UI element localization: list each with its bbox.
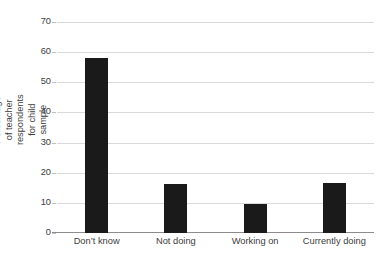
- y-axis-tick-mark: [52, 22, 56, 23]
- y-axis-tick-mark: [52, 52, 56, 53]
- y-axis-tick-label: 0: [31, 228, 51, 237]
- bar-slot: [216, 22, 295, 233]
- bar-slot: [136, 22, 215, 233]
- x-axis-tick-label: Working on: [216, 236, 295, 247]
- bar[interactable]: [164, 184, 187, 233]
- y-axis-tick-label: 10: [31, 198, 51, 207]
- y-axis-tick-mark: [52, 82, 56, 83]
- y-axis-tick-label: 70: [31, 17, 51, 26]
- bar-slot: [295, 22, 374, 233]
- plot-area: [57, 22, 374, 233]
- y-axis-tick-label: 40: [31, 107, 51, 116]
- bar[interactable]: [323, 183, 346, 233]
- bar[interactable]: [244, 204, 267, 233]
- y-axis-tick-label: 50: [31, 77, 51, 86]
- x-axis-tick-labels: Don’t knowNot doingWorking onCurrently d…: [57, 236, 374, 252]
- y-axis-tick-mark: [52, 112, 56, 113]
- x-axis-tick-label: Not doing: [136, 236, 215, 247]
- bar-slot: [57, 22, 136, 233]
- y-axis-tick-label: 60: [31, 47, 51, 56]
- y-axis-tick-mark: [52, 143, 56, 144]
- bar-chart-figure: Percentage of teacher respondents for ch…: [0, 0, 386, 264]
- x-axis-tick-label: Currently doing: [295, 236, 374, 247]
- y-axis-tick-label: 20: [31, 168, 51, 177]
- y-axis-tick-mark: [52, 203, 56, 204]
- x-axis-tick-label: Don’t know: [57, 236, 136, 247]
- bar[interactable]: [85, 58, 108, 233]
- y-axis-tick-label: 30: [31, 138, 51, 147]
- y-axis-tick-mark: [52, 173, 56, 174]
- y-axis-tick-mark: [52, 233, 56, 234]
